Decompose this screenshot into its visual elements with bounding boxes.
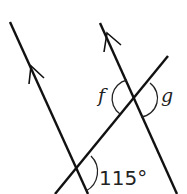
angle-label-g: g: [161, 84, 173, 106]
angle-arc-115: [86, 156, 98, 191]
geometry-svg: [0, 0, 187, 194]
diagram: f g 115°: [0, 0, 187, 194]
angle-label-f: f: [98, 84, 105, 106]
angle-arc-g: [141, 83, 158, 117]
angle-label-115: 115°: [99, 166, 147, 190]
